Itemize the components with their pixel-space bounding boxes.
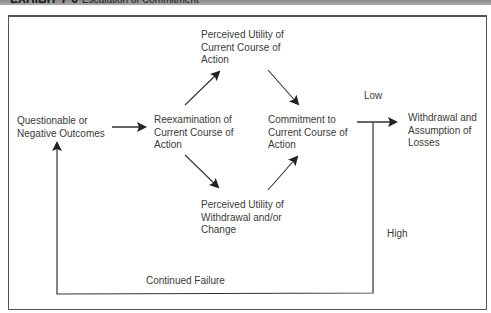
node-questionable-outcomes: Questionable or Negative Outcomes bbox=[17, 115, 105, 140]
arrow-reexamination-to-utility-withdrawal bbox=[185, 155, 218, 187]
edge-label-high: High bbox=[387, 228, 408, 241]
arrow-utility-current-to-commitment bbox=[268, 70, 298, 104]
node-reexamination: Reexamination of Current Course of Actio… bbox=[154, 114, 233, 152]
edge-label-continued-failure: Continued Failure bbox=[146, 275, 225, 288]
edge-label-low: Low bbox=[364, 90, 382, 103]
node-withdrawal-losses: Withdrawal and Assumption of Losses bbox=[408, 112, 477, 150]
node-commitment: Commitment to Current Course of Action bbox=[268, 114, 347, 152]
node-utility-withdrawal: Perceived Utility of Withdrawal and/or C… bbox=[201, 199, 284, 237]
arrow-reexamination-to-utility-current bbox=[185, 72, 219, 105]
node-utility-current-course: Perceived Utility of Current Course of A… bbox=[201, 29, 284, 67]
arrow-utility-withdrawal-to-commitment bbox=[268, 157, 297, 190]
